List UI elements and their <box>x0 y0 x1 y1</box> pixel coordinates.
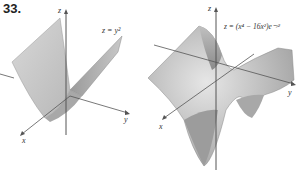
y-axis-label: y <box>288 88 292 97</box>
parabolic-cylinder-surface <box>0 0 150 174</box>
figure-33: 33. z = y² z y x <box>0 0 150 174</box>
figure-35: z = (x⁴ − 16x²)e⁻ʸ² z y x <box>144 0 306 174</box>
y-axis-label: y <box>124 115 128 124</box>
z-axis-label: z <box>208 4 211 13</box>
z-axis-label: z <box>58 6 61 15</box>
figure-number: 33. <box>3 1 21 16</box>
equation-label: z = y² <box>102 26 120 35</box>
x-axis-label: x <box>159 122 163 131</box>
x-axis-label: x <box>22 136 26 145</box>
equation-label: z = (x⁴ − 16x²)e⁻ʸ² <box>224 22 280 31</box>
